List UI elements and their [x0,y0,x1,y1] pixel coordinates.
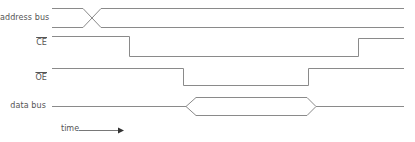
waveform-data-bus [52,98,404,116]
time-arrow-icon [79,128,124,134]
timing-diagram: address bus CE OE data bus time [0,0,415,142]
waveform-ce [52,37,404,57]
waveform-address-bus [52,9,404,28]
waveforms [0,0,415,142]
waveform-oe [52,69,404,86]
